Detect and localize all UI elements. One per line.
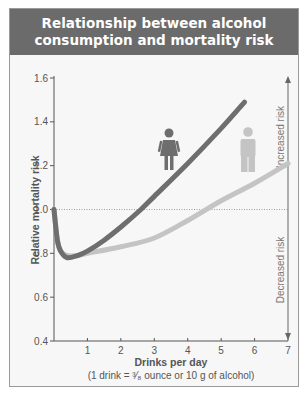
decreased-risk-label: Decreased risk	[275, 236, 286, 304]
increased-risk-label: Increased risk	[275, 105, 286, 168]
y-tick-label: 1.6	[34, 73, 48, 84]
x-tick-label: 1	[85, 345, 91, 356]
x-tick-label: 5	[218, 345, 224, 356]
x-tick-label: 6	[252, 345, 258, 356]
x-axis-note: (1 drink = ³⁄₈ ounce or 10 g of alcohol)	[88, 370, 255, 381]
women-line	[54, 102, 245, 258]
x-axis-label: Drinks per day	[135, 356, 208, 368]
up-arrow-icon	[285, 76, 291, 83]
y-axis-label: Relative mortality risk	[29, 155, 41, 264]
down-arrow-icon	[285, 333, 291, 340]
y-tick-label: 0.4	[34, 336, 48, 347]
female-figure-icon	[158, 129, 181, 171]
x-tick-label: 7	[285, 345, 291, 356]
chart-svg: 0.40.60.81.01.21.41.6 1234567 Increased …	[0, 0, 308, 410]
y-tick-label: 0.6	[34, 292, 48, 303]
x-tick-label: 2	[118, 345, 124, 356]
x-tick-label: 3	[152, 345, 158, 356]
y-tick-label: 1.4	[34, 116, 48, 127]
male-figure-icon	[241, 127, 256, 172]
x-tick-label: 4	[185, 345, 191, 356]
